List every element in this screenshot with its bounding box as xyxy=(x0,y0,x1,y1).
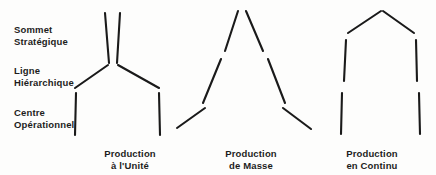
tier-label-sommet-strategique: Sommet Stratégique xyxy=(14,24,68,47)
segment-3-2 xyxy=(383,11,414,33)
shape-2 xyxy=(177,11,311,129)
segment-3-1 xyxy=(348,11,381,33)
segment-2-3 xyxy=(203,59,221,103)
segment-2-6 xyxy=(283,108,311,129)
segment-2-2 xyxy=(246,11,263,51)
segment-1-1 xyxy=(105,13,109,63)
caption-production-de-masse: Production de Masse xyxy=(196,148,306,171)
segment-2-1 xyxy=(225,11,238,51)
segment-1-6 xyxy=(159,93,160,135)
diagram-canvas: Sommet Stratégique Ligne Hiérarchique Ce… xyxy=(0,0,436,175)
segment-2-4 xyxy=(268,59,285,103)
caption-production-en-continu: Production en Continu xyxy=(317,148,427,171)
tier-label-centre-operationnel: Centre Opérationnel xyxy=(14,107,74,130)
segment-3-6 xyxy=(419,93,420,134)
segment-1-2 xyxy=(117,13,120,63)
segment-1-5 xyxy=(75,93,76,135)
shape-1 xyxy=(75,13,160,135)
segment-3-3 xyxy=(344,40,346,81)
caption-production-a-l-unite: Production à l'Unité xyxy=(75,148,185,171)
segment-1-3 xyxy=(75,65,108,88)
segment-1-4 xyxy=(118,65,159,88)
segment-2-5 xyxy=(177,108,205,128)
segment-3-5 xyxy=(341,93,342,134)
segment-3-4 xyxy=(416,40,417,81)
shape-3 xyxy=(341,11,420,134)
tier-label-ligne-hierarchique: Ligne Hiérarchique xyxy=(14,65,74,88)
